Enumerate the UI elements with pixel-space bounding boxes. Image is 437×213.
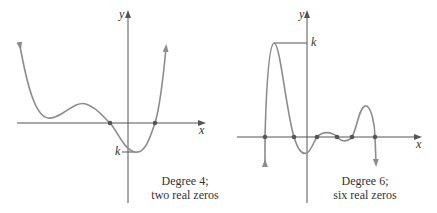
y-axis-label: y xyxy=(299,8,304,21)
x-axis-label: x xyxy=(199,124,204,137)
k-label: k xyxy=(115,145,120,158)
caption-line-1: Degree 6; xyxy=(320,174,410,188)
zero-point xyxy=(153,121,158,126)
caption-line-1: Degree 4; xyxy=(140,174,230,188)
y-axis-label: y xyxy=(119,8,124,21)
zero-point xyxy=(108,121,113,126)
caption-line-2: two real zeros xyxy=(140,188,230,202)
x-axis-label: x xyxy=(416,138,421,151)
zero-point xyxy=(292,135,297,140)
degree-6-curve xyxy=(265,43,376,163)
k-label: k xyxy=(311,36,316,49)
caption-line-2: six real zeros xyxy=(320,188,410,202)
degree-4-curve xyxy=(20,46,166,152)
zero-point xyxy=(315,135,320,140)
caption-degree-6: Degree 6; six real zeros xyxy=(320,174,410,202)
zero-point xyxy=(335,135,340,140)
zero-point xyxy=(373,135,378,140)
caption-degree-4: Degree 4; two real zeros xyxy=(140,174,230,202)
zero-point xyxy=(350,135,355,140)
zero-point xyxy=(263,135,268,140)
